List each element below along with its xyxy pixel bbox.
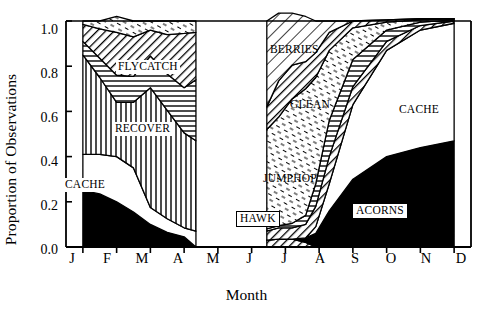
label-cache-left: CACHE (63, 178, 107, 192)
label-hawk: HAWK (236, 211, 280, 227)
chart-plot-area (0, 0, 493, 319)
label-recover: RECOVER (113, 122, 172, 136)
chart-root: Proportion of Observations Month 1.0 0.8… (0, 0, 493, 319)
label-berries: BERRIES (270, 44, 319, 56)
label-cache-right: CACHE (399, 104, 439, 116)
label-flycatch: FLYCATCH (116, 60, 180, 74)
label-jumphop: JUMPHOP (263, 173, 317, 185)
label-glean: GLEAN (290, 99, 330, 111)
label-acorns: ACORNS (352, 203, 408, 219)
